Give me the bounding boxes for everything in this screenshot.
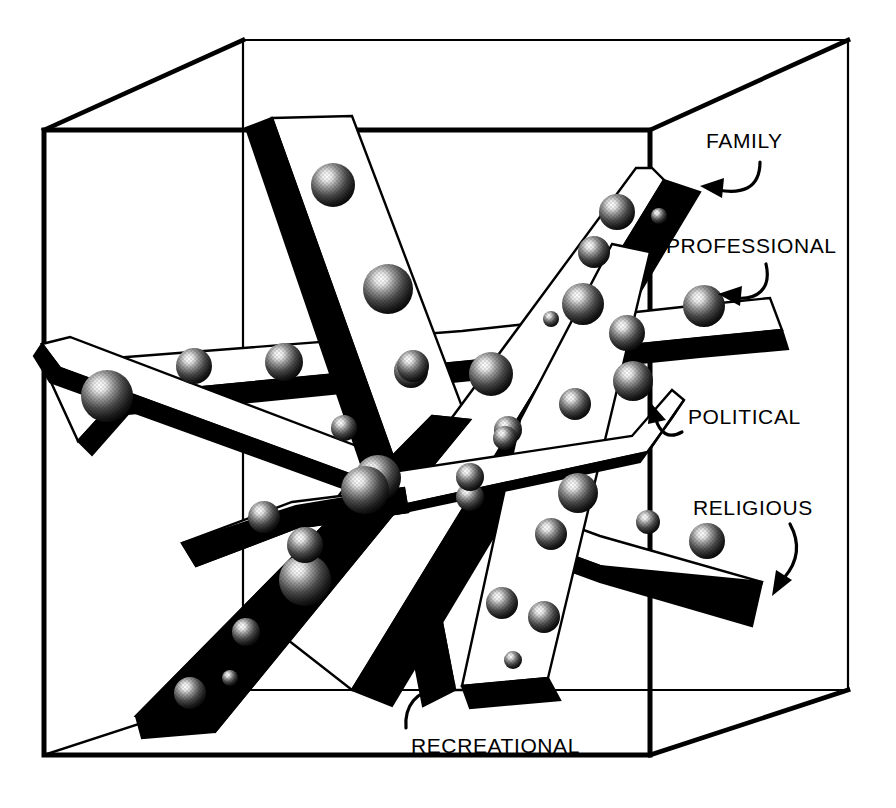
- sphere: [599, 194, 635, 230]
- sphere: [397, 350, 429, 382]
- sphere: [248, 501, 280, 533]
- sphere: [265, 343, 303, 381]
- sphere: [486, 587, 518, 619]
- label-family-text: FAMILY: [706, 129, 783, 152]
- sphere: [81, 370, 133, 422]
- sphere: [331, 415, 357, 441]
- sphere: [493, 426, 517, 450]
- sphere: [559, 388, 591, 420]
- sphere: [613, 361, 653, 401]
- label-professional-text: PROFESSIONAL: [666, 234, 837, 257]
- sphere: [562, 283, 604, 325]
- sphere: [456, 463, 484, 491]
- sphere: [311, 163, 355, 207]
- sphere: [683, 285, 725, 327]
- sphere: [636, 510, 660, 534]
- sphere: [578, 236, 610, 268]
- sphere: [232, 618, 260, 646]
- sphere: [504, 651, 522, 669]
- label-political-text: POLITICAL: [688, 405, 801, 428]
- sphere: [651, 208, 667, 224]
- sphere: [543, 311, 559, 327]
- sphere: [363, 264, 413, 314]
- sphere: [609, 315, 645, 351]
- sphere: [469, 352, 513, 396]
- sphere: [287, 527, 323, 563]
- sphere: [528, 601, 560, 633]
- sphere: [222, 670, 238, 686]
- figure-root: FAMILY PROFESSIONAL POLITICAL RELIGIOUS …: [0, 0, 896, 808]
- sphere: [558, 473, 598, 513]
- label-religious-text: RELIGIOUS: [693, 496, 813, 519]
- sphere: [174, 677, 206, 709]
- sphere: [341, 466, 389, 514]
- sphere: [535, 518, 567, 550]
- diagram-canvas: FAMILY PROFESSIONAL POLITICAL RELIGIOUS …: [0, 0, 896, 808]
- label-recreational-text: RECREATIONAL: [411, 734, 580, 757]
- sphere: [689, 523, 725, 559]
- sphere: [176, 348, 212, 384]
